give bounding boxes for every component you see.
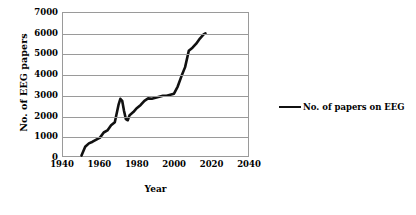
x-tick-label: 1940 [42,160,82,169]
x-axis-title: Year [62,184,249,194]
eeg-papers-line-chart: No. of EEG papers 0100020003000400050006… [0,0,416,215]
gridline [63,96,248,97]
plot-area [62,12,249,157]
x-tick-label: 2000 [154,160,194,169]
y-axis-tick-labels: 01000200030004000500060007000 [22,12,58,157]
x-axis-tick-labels: 194019601980200020202040 [62,160,249,174]
gridline [63,117,248,118]
legend-label: No. of papers on EEG [303,103,405,112]
x-tick-label: 2040 [229,160,269,169]
x-tick-label: 1960 [79,160,119,169]
gridline [63,75,248,76]
y-tick-label: 3000 [22,91,58,100]
chart-legend: No. of papers on EEG [279,103,405,112]
gridline [63,54,248,55]
y-tick-label: 4000 [22,70,58,79]
y-tick-label: 2000 [22,111,58,120]
gridline [63,34,248,35]
y-tick-label: 7000 [22,8,58,17]
y-tick-label: 1000 [22,132,58,141]
x-tick-label: 2020 [192,160,232,169]
y-tick-label: 6000 [22,28,58,37]
y-tick-label: 5000 [22,49,58,58]
x-tick-label: 1980 [117,160,157,169]
legend-line-swatch [279,106,301,108]
gridline [63,137,248,138]
